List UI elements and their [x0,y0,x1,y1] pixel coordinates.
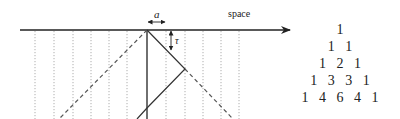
pascal-row-3: 1 3 3 1 [280,73,400,89]
time-tau-label: τ [175,35,179,46]
pascal-row-0: 1 [280,22,400,38]
pascal-row-2: 1 2 1 [280,56,400,72]
lattice-grid-lines [35,31,239,119]
pascal-row-4: 1 4 6 4 1 [280,90,400,106]
dashed-light-cone [59,30,233,119]
pascal-row-1: 1 1 [280,39,400,55]
spacing-a-label: a [154,8,160,20]
space-axis-label: space [228,8,251,19]
